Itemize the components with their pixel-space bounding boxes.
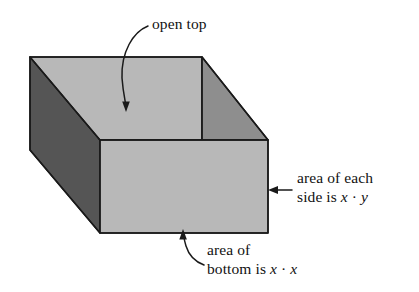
bottom-area-dot: ·	[277, 260, 290, 277]
side-area-line2: side is x · y	[297, 187, 373, 206]
side-area-dot: ·	[348, 188, 361, 205]
bottom-area-line2: bottom is x · x	[207, 259, 297, 278]
label-bottom-area: area of bottom is x · x	[207, 240, 297, 278]
side-area-variable-x: x	[341, 188, 348, 205]
side-area-arrowhead	[268, 186, 278, 194]
side-area-line1: area of each	[297, 168, 373, 187]
label-open-top: open top	[152, 14, 207, 33]
box-front-outer-face	[100, 140, 268, 233]
label-side-area: area of each side is x · y	[297, 168, 373, 206]
bottom-area-line2-prefix: bottom is	[207, 260, 270, 277]
side-area-variable-y: y	[361, 188, 368, 205]
side-area-line2-prefix: side is	[297, 188, 341, 205]
bottom-area-line1: area of	[207, 240, 297, 259]
bottom-area-variable-x1: x	[270, 260, 277, 277]
open-top-text: open top	[152, 14, 207, 33]
bottom-area-variable-x2: x	[290, 260, 297, 277]
